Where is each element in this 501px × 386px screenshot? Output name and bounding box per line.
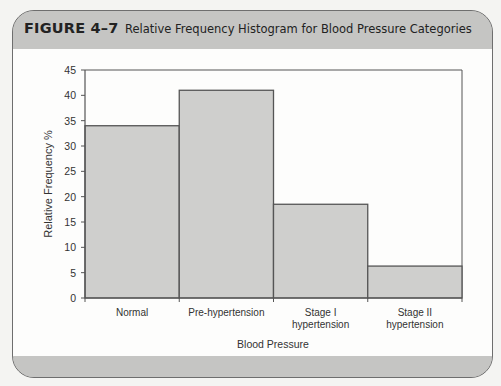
bar-normal: [85, 126, 179, 298]
y-tick-label: 30: [64, 140, 76, 152]
y-tick-label: 15: [64, 216, 76, 228]
histogram-chart: 051015202530354045 NormalPre-hypertensio…: [0, 0, 501, 386]
x-tick-label: Pre-hypertension: [188, 307, 264, 318]
y-tick-label: 0: [70, 292, 76, 304]
bars: [85, 90, 462, 298]
y-tick-label: 40: [64, 89, 76, 101]
x-tick-label: Stage I: [305, 307, 337, 318]
x-axis-label: Blood Pressure: [237, 338, 309, 350]
y-axis-label: Relative Frequency %: [42, 130, 54, 238]
y-axis: 051015202530354045: [64, 64, 85, 304]
bar-pre-hypertension: [179, 90, 273, 298]
y-tick-label: 35: [64, 115, 76, 127]
x-tick-label: hypertension: [386, 319, 443, 330]
x-tick-label: Stage II: [398, 307, 432, 318]
bar-stage-ii-hypertension: [368, 266, 462, 298]
x-tick-label: hypertension: [292, 319, 349, 330]
x-axis: NormalPre-hypertensionStage Ihypertensio…: [85, 298, 462, 330]
bar-stage-i-hypertension: [274, 204, 368, 298]
y-tick-label: 5: [70, 267, 76, 279]
y-tick-label: 20: [64, 191, 76, 203]
y-tick-label: 45: [64, 64, 76, 76]
y-tick-label: 25: [64, 165, 76, 177]
y-tick-label: 10: [64, 241, 76, 253]
x-tick-label: Normal: [116, 307, 148, 318]
